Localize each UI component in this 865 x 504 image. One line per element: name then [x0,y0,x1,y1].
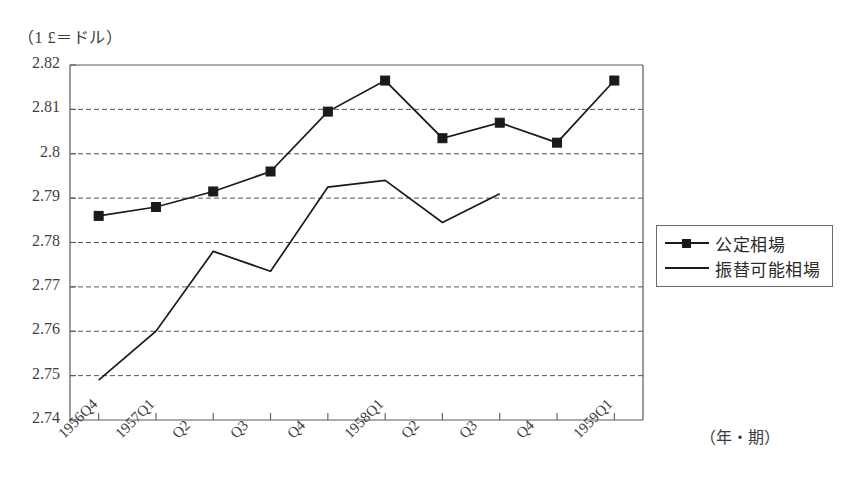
data-point-marker [151,203,160,212]
y-tick-label: 2.8 [8,143,60,161]
y-tick-label: 2.74 [8,409,60,427]
legend: 公定相場 振替可能相場 [656,225,833,287]
legend-swatch-plain-line [665,260,709,276]
data-point-marker [438,134,447,143]
series-line-0 [99,81,615,216]
y-tick-label: 2.78 [8,232,60,250]
y-tick-label: 2.79 [8,187,60,205]
series-lines-group [99,81,615,381]
legend-item-0: 公定相場 [665,231,785,255]
legend-label-0: 公定相場 [715,231,785,256]
series-markers-group [94,76,619,220]
gridlines-group [70,109,643,375]
legend-swatch-line-with-square-marker [665,235,709,251]
y-tick-label: 2.77 [8,276,60,294]
data-point-marker [266,167,275,176]
data-point-marker [323,107,332,116]
data-point-marker [553,138,562,147]
chart-figure: （1 £＝ドル） （年・期） 2.822.812.82.792.782.772.… [0,0,865,504]
data-point-marker [381,76,390,85]
legend-label-1: 振替可能相場 [715,256,820,281]
data-point-marker [94,211,103,220]
data-point-marker [209,187,218,196]
legend-item-1: 振替可能相場 [665,256,820,280]
data-point-marker [495,118,504,127]
y-tick-label: 2.76 [8,320,60,338]
y-tick-marks-group [70,65,76,420]
data-point-marker [610,76,619,85]
y-tick-label: 2.82 [8,54,60,72]
y-tick-label: 2.75 [8,365,60,383]
axes-group [70,65,643,420]
y-tick-label: 2.81 [8,98,60,116]
